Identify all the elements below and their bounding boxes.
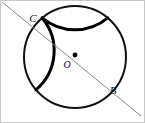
label-point-o: O <box>63 59 70 70</box>
circle-diagram-canvas: C O B <box>0 0 145 123</box>
label-point-c: C <box>29 12 37 24</box>
label-point-b: B <box>110 84 117 96</box>
geometry-figure: C O B <box>0 0 145 123</box>
center-point-dot <box>73 53 78 58</box>
